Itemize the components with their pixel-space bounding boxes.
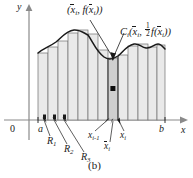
xbari-sub: i <box>108 145 110 152</box>
right-endpoint-label: b <box>159 124 164 134</box>
rectangle-12 <box>148 47 157 120</box>
rectangle-13 <box>157 45 165 120</box>
y-axis-arrowhead <box>26 4 33 11</box>
left-endpoint-label: a <box>38 124 43 134</box>
centroid-point-annotation: Ci(xi, 12f(xi)) <box>120 22 171 39</box>
figure-caption: (b) <box>88 160 101 171</box>
xi-sub: i <box>124 134 126 141</box>
r1-sub: 1 <box>53 140 56 147</box>
partition-label-x-bar-i: xi <box>104 142 110 152</box>
partition-label-x-i-minus-1: xi-1 <box>88 131 99 141</box>
rectangle-4 <box>68 33 78 120</box>
xbar-glyph: x <box>71 5 76 16</box>
function-glyph: f <box>82 4 85 15</box>
xbar-glyph-3: x <box>133 27 138 38</box>
one-half-fraction: 12 <box>145 22 150 38</box>
figure-region-under-curve: y x 0 a b (xi, f(xi)) Ci(xi, 12f(xi)) R1… <box>0 0 193 178</box>
top-point-annotation: (xi, f(xi)) <box>67 5 102 17</box>
fraction-denominator: 2 <box>145 30 150 37</box>
y-axis-label: y <box>17 2 21 12</box>
xbar-glyph-4: x <box>157 27 162 38</box>
x-axis-label: x <box>181 125 185 135</box>
rectangle-1 <box>38 53 48 120</box>
partition-label-x-i: xi <box>120 131 126 141</box>
r2-sub: 2 <box>70 148 73 155</box>
xbar-sub-3: i <box>137 31 139 39</box>
function-glyph-2: f <box>151 26 154 37</box>
riemann-rectangles-group <box>38 30 165 120</box>
xbar-sub-4: i <box>162 31 164 39</box>
centroid-dot <box>110 86 115 91</box>
xim1-sub: i-1 <box>92 134 99 141</box>
rectangle-6 <box>88 34 98 120</box>
xbar-sub: i <box>75 9 77 17</box>
rectangle-5 <box>78 30 88 120</box>
rectangle-3 <box>58 41 68 120</box>
xbar-glyph-2: x <box>89 5 94 16</box>
centroid-label-c: C <box>120 26 127 37</box>
centroid-label-sub: i <box>127 31 129 39</box>
xbari-base: x <box>104 142 108 152</box>
region-label-r1: R1 <box>47 136 57 148</box>
rectangle-11 <box>138 44 148 120</box>
region-label-r2: R2 <box>64 144 74 156</box>
rectangle-7 <box>98 50 108 120</box>
origin-label: 0 <box>10 124 15 134</box>
rectangle-9 <box>118 55 128 120</box>
rectangle-2 <box>48 47 58 120</box>
x-axis-arrowhead <box>180 117 188 124</box>
rectangle-10 <box>128 46 138 120</box>
